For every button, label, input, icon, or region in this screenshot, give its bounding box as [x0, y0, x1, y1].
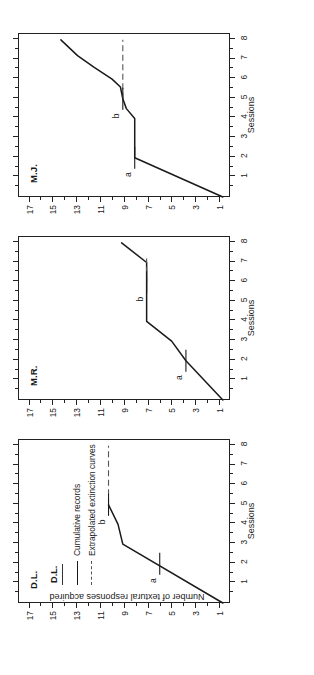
annotation-label-mr-b: b: [135, 297, 145, 302]
y-tick-label-dl-7: 7: [144, 611, 154, 616]
rotated-figure-wrapper: 135791113151712345678 D.L. D.L. Cumulati…: [0, 0, 314, 675]
y-tick-label-mj-9: 9: [120, 205, 130, 210]
y-tick-label-mr-13: 13: [72, 408, 82, 417]
y-tick-label-mj-15: 15: [48, 205, 58, 214]
figure-canvas: 135791113151712345678 D.L. D.L. Cumulati…: [0, 0, 314, 675]
panel-mr: 135791113151712345678 M.R. Sessions ab: [14, 230, 260, 426]
y-tick-label-mj-5: 5: [167, 205, 177, 210]
annotation-label-dl-a: a: [148, 578, 158, 583]
series-dl-solid: [109, 505, 223, 603]
data-layer-dl: [18, 439, 230, 603]
y-axis-title-dl: Number of textural responses acquired: [21, 592, 233, 602]
annotation-label-mj-a: a: [123, 172, 133, 177]
y-tick-label-dl-1: 1: [215, 611, 225, 616]
panel-mj: 135791113151712345678 M.J. Sessions ab: [14, 27, 260, 223]
y-tick-label-dl-13: 13: [72, 611, 82, 620]
annotation-label-dl-b: b: [97, 519, 107, 524]
y-tick-label-dl-3: 3: [191, 611, 201, 616]
y-tick-label-mr-5: 5: [167, 408, 177, 413]
data-layer-mr: [18, 236, 230, 400]
y-tick-label-mj-17: 17: [25, 205, 35, 214]
y-tick-label-mj-7: 7: [144, 205, 154, 210]
series-mj-solid: [61, 40, 223, 197]
y-tick-label-mr-7: 7: [144, 408, 154, 413]
annotation-label-mr-a: a: [174, 375, 184, 380]
y-tick-label-mr-17: 17: [25, 408, 35, 417]
y-tick-label-mr-11: 11: [96, 408, 106, 417]
y-tick-label-mr-1: 1: [215, 408, 225, 413]
annotation-label-mj-b: b: [111, 113, 121, 118]
y-tick-label-dl-17: 17: [25, 611, 35, 620]
y-tick-label-mj-13: 13: [72, 205, 82, 214]
x-axis-title-dl: Sessions: [246, 439, 256, 603]
y-tick-label-dl-15: 15: [48, 611, 58, 620]
series-mr-solid: [122, 243, 223, 400]
x-axis-title-mr: Sessions: [246, 236, 256, 400]
y-tick-label-mr-15: 15: [48, 408, 58, 417]
y-tick-label-mr-9: 9: [120, 408, 130, 413]
y-tick-label-dl-11: 11: [96, 611, 106, 620]
y-tick-label-dl-9: 9: [120, 611, 130, 616]
y-tick-label-mj-3: 3: [191, 205, 201, 210]
panel-dl: 135791113151712345678 D.L. D.L. Cumulati…: [14, 433, 260, 629]
y-tick-label-mj-11: 11: [96, 205, 106, 214]
y-tick-label-mj-1: 1: [215, 205, 225, 210]
y-tick-label-dl-5: 5: [167, 611, 177, 616]
x-axis-title-mj: Sessions: [246, 33, 256, 197]
y-tick-label-mr-3: 3: [191, 408, 201, 413]
